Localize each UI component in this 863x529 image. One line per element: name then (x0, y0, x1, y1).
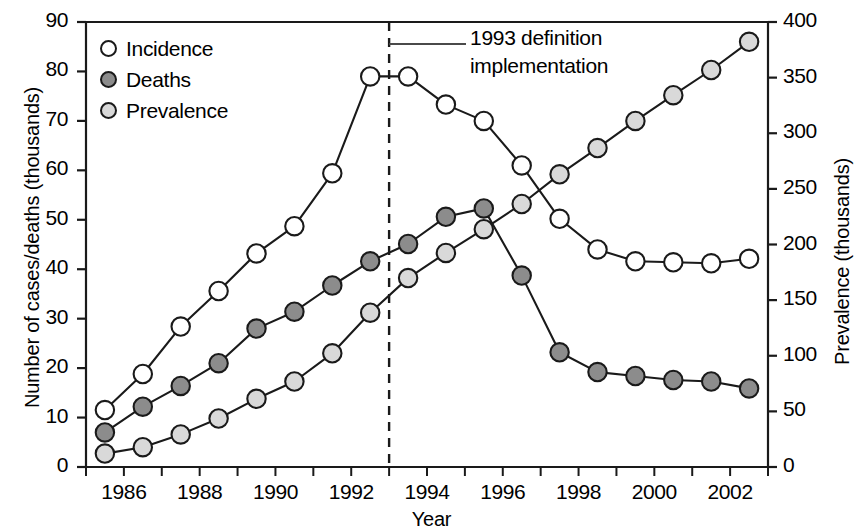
y-axis-left-title: Number of cases/deaths (thousands) (21, 38, 44, 458)
data-point-incidence (513, 156, 531, 174)
data-point-deaths (399, 235, 417, 253)
legend-item-deaths: Deaths (100, 65, 228, 94)
data-point-incidence (134, 365, 152, 383)
data-point-incidence (702, 254, 720, 272)
legend-marker-incidence-icon (100, 40, 117, 57)
legend-item-prevalence: Prevalence (100, 96, 228, 125)
legend-item-incidence: Incidence (100, 34, 228, 63)
chart-legend: Incidence Deaths Prevalence (100, 34, 228, 127)
data-point-deaths (475, 199, 493, 217)
data-point-incidence (475, 112, 493, 130)
data-point-deaths (172, 377, 190, 395)
data-point-deaths (209, 354, 227, 372)
annotation-line-2: implementation (470, 52, 730, 80)
data-point-prevalence (437, 244, 455, 262)
data-point-deaths (702, 372, 720, 390)
y-axis-left-tick-label: 90 (0, 8, 68, 32)
data-point-incidence (209, 282, 227, 300)
legend-label-incidence: Incidence (126, 38, 213, 59)
data-point-deaths (247, 319, 265, 337)
x-axis-title: Year (0, 508, 863, 529)
data-point-prevalence (550, 165, 568, 183)
series-line-deaths (105, 208, 749, 432)
data-point-incidence (626, 252, 644, 270)
data-point-incidence (361, 67, 379, 85)
annotation-definition-change: 1993 definition implementation (470, 24, 730, 79)
data-point-prevalence (626, 112, 644, 130)
data-point-incidence (740, 250, 758, 268)
data-point-prevalence (664, 86, 682, 104)
data-point-deaths (588, 363, 606, 381)
data-point-incidence (285, 217, 303, 235)
x-axis-tick-label: 2002 (685, 480, 775, 504)
y-axis-right-tick-label: 400 (783, 8, 863, 32)
data-point-deaths (513, 266, 531, 284)
data-point-prevalence (475, 220, 493, 238)
data-point-prevalence (361, 304, 379, 322)
data-point-deaths (550, 343, 568, 361)
legend-marker-prevalence-icon (100, 102, 117, 119)
data-point-incidence (323, 164, 341, 182)
data-point-incidence (96, 401, 114, 419)
data-point-deaths (96, 423, 114, 441)
series-deaths (96, 199, 759, 441)
data-point-incidence (399, 67, 417, 85)
data-point-incidence (172, 317, 190, 335)
data-point-prevalence (96, 444, 114, 462)
data-point-deaths (626, 367, 644, 385)
data-point-prevalence (172, 425, 190, 443)
y-axis-right-title: Prevalence (thousands) (831, 52, 854, 472)
legend-label-deaths: Deaths (126, 69, 191, 90)
data-point-prevalence (134, 438, 152, 456)
data-point-prevalence (399, 269, 417, 287)
data-point-incidence (664, 253, 682, 271)
data-point-prevalence (740, 33, 758, 51)
legend-marker-deaths-icon (100, 71, 117, 88)
legend-label-prevalence: Prevalence (126, 100, 228, 121)
data-point-prevalence (513, 195, 531, 213)
chart-figure: 0102030405060708090 05010015020025030035… (0, 0, 863, 529)
data-point-incidence (247, 244, 265, 262)
data-point-deaths (323, 276, 341, 294)
data-point-deaths (437, 208, 455, 226)
data-point-incidence (550, 210, 568, 228)
data-point-deaths (361, 252, 379, 270)
data-point-prevalence (247, 390, 265, 408)
data-point-deaths (740, 379, 758, 397)
data-point-deaths (134, 398, 152, 416)
data-point-incidence (437, 95, 455, 113)
data-point-prevalence (323, 344, 341, 362)
data-point-incidence (588, 240, 606, 258)
data-point-prevalence (285, 372, 303, 390)
data-point-prevalence (588, 139, 606, 157)
data-point-deaths (285, 303, 303, 321)
data-point-prevalence (209, 409, 227, 427)
data-point-deaths (664, 371, 682, 389)
annotation-line-1: 1993 definition (470, 24, 730, 52)
